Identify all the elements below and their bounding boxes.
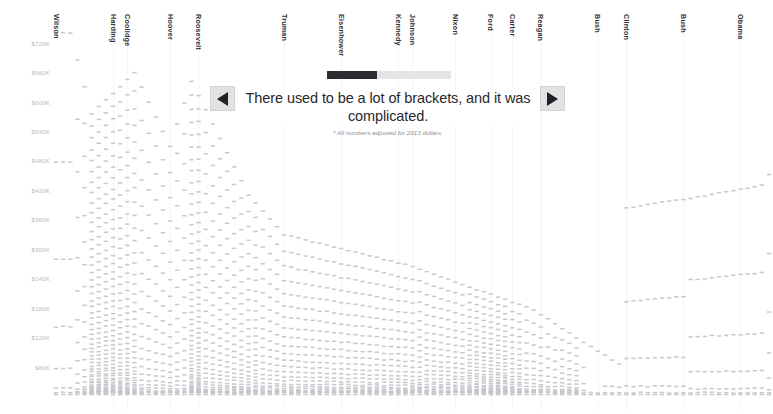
president-label-roosevelt-1933: Roosevelt bbox=[194, 14, 203, 50]
overlay-footnote: * All numbers adjusted for 2013 dollars. bbox=[243, 129, 533, 136]
overlay-headline: There used to be a lot of brackets, and … bbox=[243, 89, 533, 125]
tax-brackets-visualization: $720K$660K$600K$540K$480K$420K$360K$300K… bbox=[0, 0, 773, 414]
story-overlay-card: There used to be a lot of brackets, and … bbox=[205, 62, 570, 148]
president-label-wilson-1913: Wilson bbox=[52, 14, 61, 39]
president-label-ford-1974: Ford bbox=[486, 14, 495, 31]
president-label-hoover-1929: Hoover bbox=[166, 14, 175, 40]
president-label-obama-2009: Obama bbox=[736, 14, 745, 39]
president-label-harding-1921: Harding bbox=[109, 14, 118, 43]
president-label-nixon-1969: Nixon bbox=[451, 14, 460, 35]
president-label-truman-1945: Truman bbox=[280, 14, 289, 41]
president-label-kennedy-1961: Kennedy bbox=[394, 14, 403, 46]
previous-slide-button[interactable] bbox=[210, 86, 235, 111]
president-label-bush-2001: Bush bbox=[679, 14, 688, 33]
chevron-right-icon bbox=[547, 92, 558, 106]
president-label-coolidge-1923: Coolidge bbox=[123, 14, 132, 46]
president-label-johnson-1963: Johnson bbox=[408, 14, 417, 45]
president-label-eisenhower-1953: Eisenhower bbox=[337, 14, 346, 56]
president-label-reagan-1981: Reagan bbox=[536, 14, 545, 41]
president-label-bush-1989: Bush bbox=[593, 14, 602, 33]
president-label-clinton-1993: Clinton bbox=[622, 14, 631, 40]
story-progress-fill bbox=[327, 71, 377, 79]
story-progress-track[interactable] bbox=[327, 71, 451, 79]
president-label-carter-1977: Carter bbox=[508, 14, 517, 36]
chevron-left-icon bbox=[217, 92, 228, 106]
next-slide-button[interactable] bbox=[540, 86, 565, 111]
